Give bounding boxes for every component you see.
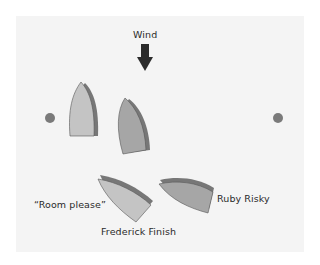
frederick-finish-label: Frederick Finish [101,226,176,237]
ruby-risky-label: Ruby Risky [217,193,270,204]
boat-ruby-risky [159,178,214,213]
boat-upper-center [118,98,150,154]
wind-label: Wind [133,29,157,40]
left-mark [45,113,55,123]
boat-frederick-finish [98,175,153,222]
room-please-label: “Room please” [34,199,106,210]
right-mark [273,113,283,123]
boat-upper-left [69,82,98,136]
wind-arrow-icon [137,44,153,71]
